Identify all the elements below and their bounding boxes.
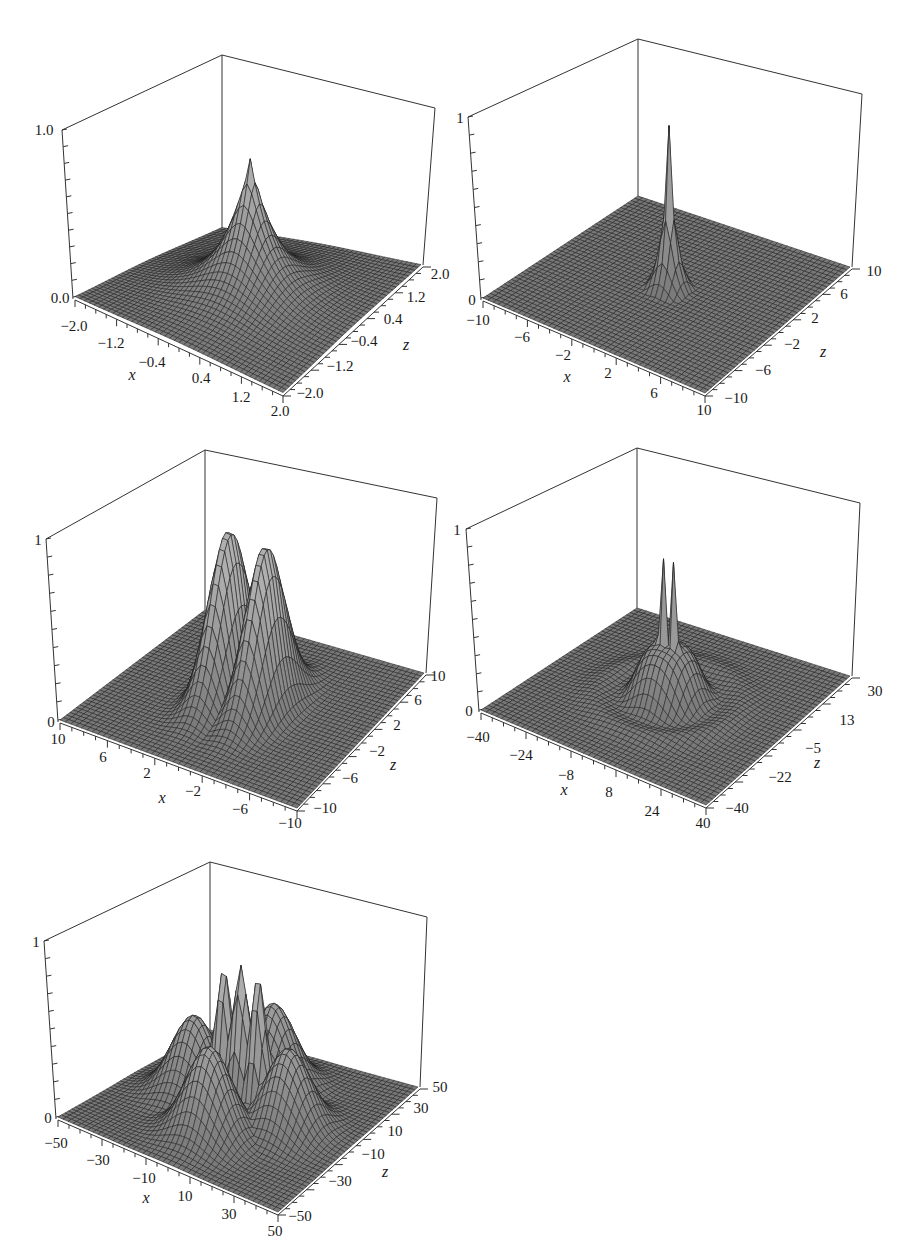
x-tick-label: 30	[222, 1207, 237, 1222]
x-tick-label: −30	[86, 1153, 109, 1168]
x-axis-title: x	[142, 1190, 149, 1206]
surface-mesh	[58, 965, 418, 1212]
z-tick-label: 50	[433, 1080, 448, 1095]
z-tick-label: −30	[328, 1174, 351, 1189]
z-tick-label: −10	[361, 1147, 384, 1162]
y-axis-min-label: 0	[44, 1111, 52, 1126]
surface-svg	[0, 0, 899, 1253]
z-axis-title: z	[382, 1164, 388, 1180]
x-tick-label: 10	[178, 1189, 193, 1204]
x-tick-label: −50	[44, 1136, 67, 1151]
figure-page: 1.00.0−2.0−1.2−0.40.41.22.02.01.20.4−0.4…	[0, 0, 899, 1253]
x-tick-label: 50	[268, 1224, 283, 1239]
x-tick-label: −10	[132, 1171, 155, 1186]
z-tick-label: 10	[388, 1124, 403, 1139]
z-tick-label: 30	[414, 1101, 429, 1116]
y-axis-max-label: 1	[32, 935, 40, 950]
z-tick-label: −50	[288, 1209, 311, 1224]
